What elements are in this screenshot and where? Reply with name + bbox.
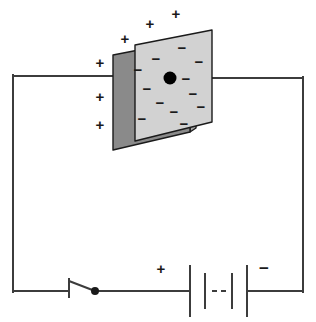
- plus-charge-symbol: +: [146, 15, 155, 32]
- minus-charge-symbol: −: [197, 98, 206, 115]
- minus-charge-symbol: −: [170, 103, 179, 120]
- minus-charge-symbol: −: [134, 61, 143, 78]
- minus-charge-symbol: −: [156, 94, 165, 111]
- minus-charge-symbol: −: [195, 53, 204, 70]
- wire-junction-dot: [164, 72, 177, 85]
- minus-charge-symbol: −: [180, 115, 189, 132]
- minus-charge-symbol: −: [138, 110, 147, 127]
- minus-charge-symbol: −: [152, 50, 161, 67]
- minus-charge-symbol: −: [178, 39, 187, 56]
- circuit-diagram-figure: −−−−−−−−−−−− ++++++ + −: [0, 0, 316, 322]
- minus-charge-symbol: −: [143, 80, 152, 97]
- capacitor-circuit-svg: −−−−−−−−−−−− ++++++ + −: [0, 0, 316, 322]
- switch-lever-arm[interactable]: [69, 281, 95, 291]
- plus-charge-symbol: +: [121, 30, 130, 47]
- switch-pivot-dot: [91, 287, 99, 295]
- circuit-switch[interactable]: [69, 279, 99, 297]
- plus-charge-symbol: +: [96, 54, 105, 71]
- plus-charge-symbol: +: [96, 116, 105, 133]
- plus-charge-symbol: +: [96, 88, 105, 105]
- plus-charge-symbol: +: [172, 5, 181, 22]
- battery-negative-terminal-label: −: [259, 259, 269, 278]
- battery-positive-terminal-label: +: [157, 260, 166, 277]
- battery-symbol: [190, 266, 247, 316]
